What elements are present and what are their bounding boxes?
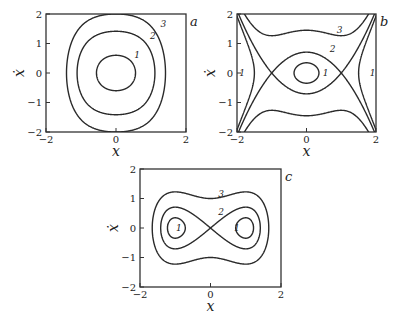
curve-label-1: 1 <box>239 68 245 78</box>
y-tick-label: 1 <box>36 38 42 49</box>
x-tick-label: 2 <box>278 289 284 300</box>
y-tick-label: 2 <box>227 9 233 20</box>
panel-label: b <box>380 14 388 29</box>
x-axis-label: x <box>303 143 311 159</box>
panel-b: −2−1012−202xẋb11123 <box>202 0 388 170</box>
curve-label-1: 1 <box>323 68 329 78</box>
curve-label-3: 3 <box>160 19 166 29</box>
curve-label-1: 1 <box>370 68 376 78</box>
y-tick-label: 0 <box>36 68 42 79</box>
curve-label-1: 1 <box>176 223 182 233</box>
y-tick-label: 0 <box>130 223 136 234</box>
curve-label-3: 3 <box>337 25 343 35</box>
trajectory-1 <box>96 55 135 90</box>
panel-label: c <box>285 169 293 184</box>
trajectory-3 <box>227 0 387 36</box>
x-tick-label: −2 <box>133 289 148 300</box>
y-axis-label: ẋ <box>105 224 121 232</box>
y-axis-label: ẋ <box>202 69 218 77</box>
curve-label-2: 2 <box>217 207 224 217</box>
y-tick-label: −1 <box>27 97 42 108</box>
y-tick-label: −1 <box>218 97 233 108</box>
x-tick-label: 2 <box>183 134 189 145</box>
phase-portrait-figure: −2−1012−202xẋa123−2−1012−202xẋb11123−2−1… <box>0 0 401 316</box>
y-axis-label: ẋ <box>11 69 27 77</box>
y-tick-label: −1 <box>121 252 136 263</box>
curve-label-1: 1 <box>234 223 240 233</box>
x-axis-label: x <box>207 298 215 314</box>
curve-label-3: 3 <box>218 189 224 199</box>
y-tick-label: 1 <box>227 38 233 49</box>
x-tick-label: −2 <box>39 134 54 145</box>
y-tick-label: 2 <box>36 9 42 20</box>
y-tick-label: 1 <box>130 193 136 204</box>
trajectory-2 <box>77 31 155 114</box>
trajectory-1 <box>294 63 319 83</box>
x-tick-label: −2 <box>230 134 245 145</box>
panel-label: a <box>190 14 198 29</box>
y-tick-label: 2 <box>130 164 136 175</box>
curve-label-2: 2 <box>149 31 156 41</box>
panel-c: −2−1012−202xẋc1123 <box>105 164 293 315</box>
curve-label-2: 2 <box>329 44 336 54</box>
x-tick-label: 2 <box>373 134 379 145</box>
panel-a: −2−1012−202xẋa123 <box>11 9 198 160</box>
curve-label-1: 1 <box>134 50 140 60</box>
y-tick-label: 0 <box>227 68 233 79</box>
plot-frame <box>237 14 376 132</box>
x-axis-label: x <box>112 143 120 159</box>
